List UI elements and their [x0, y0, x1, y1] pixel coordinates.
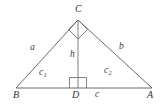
vertex-label-a: A	[147, 90, 153, 100]
segment-label-c1-base: c	[39, 67, 43, 77]
side-label-a: a	[30, 43, 35, 53]
side-label-b: b	[119, 42, 124, 52]
triangle-diagram-svg	[0, 0, 164, 105]
segment-label-c1-subscript: 1	[44, 71, 47, 78]
segment-label-c2-base: c	[104, 65, 108, 75]
vertex-label-d: D	[72, 90, 79, 100]
vertex-label-c: C	[75, 4, 82, 14]
segment-ca-side-b	[78, 20, 152, 88]
segment-label-c2-subscript: 2	[109, 69, 112, 76]
segment-label-c1: c1	[39, 68, 46, 78]
segment-label-c2: c2	[104, 66, 111, 76]
right-angle-at-d-left-icon	[70, 78, 79, 89]
base-label-c: c	[95, 90, 99, 100]
right-angle-at-d-right-icon	[78, 78, 87, 89]
geometry-figure: C B D A a b h c1 c2 c	[0, 0, 164, 105]
vertex-label-b: B	[13, 90, 19, 100]
altitude-label-h: h	[70, 50, 75, 60]
